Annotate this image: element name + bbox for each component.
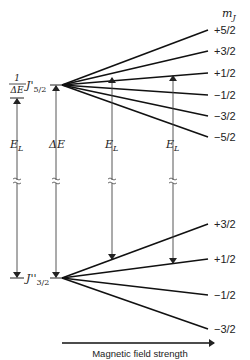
inverse-delta-e-annotation: 1 ΔE [9, 73, 26, 278]
zeeman-diagram: mJ J'5/2 +5/2 +3/2 +1/2 −1/2 −3/2 −5/2 J… [0, 0, 250, 360]
mj-label: +1/2 [214, 253, 236, 265]
mj-label: −3/2 [214, 323, 236, 335]
axis-break-icon [52, 178, 60, 184]
upper-level-label: J'5/2 [24, 79, 46, 94]
mj-label: −1/2 [214, 89, 236, 101]
lower-level: J''3/2 [24, 224, 208, 329]
mj-label: −5/2 [214, 131, 236, 143]
mj-label: −3/2 [214, 110, 236, 122]
upper-sublevel-line [62, 73, 208, 85]
el-label: EL [104, 138, 118, 153]
mj-label: +3/2 [214, 218, 236, 230]
mj-header: mJ [222, 7, 236, 22]
svg-text:1: 1 [14, 73, 20, 83]
magnetic-field-axis: Magnetic field strength [62, 343, 214, 359]
mj-label: +3/2 [214, 45, 236, 57]
axis-break-icon [169, 178, 177, 184]
el-label: EL [9, 138, 23, 153]
x-axis-label: Magnetic field strength [92, 348, 188, 359]
lower-level-label: J''3/2 [24, 272, 49, 287]
lower-sublevel-line [62, 224, 208, 278]
upper-sublevel-line [62, 30, 208, 85]
axis-break-icon [13, 178, 21, 184]
upper-level: J'5/2 [24, 30, 208, 137]
lower-sublevel-line [62, 259, 208, 278]
lower-mj-labels: +3/2 +1/2 −1/2 −3/2 [214, 218, 236, 335]
upper-mj-labels: +5/2 +3/2 +1/2 −1/2 −3/2 −5/2 [214, 24, 236, 143]
axis-break-icon [108, 178, 116, 184]
mj-label: +1/2 [214, 67, 236, 79]
delta-e-label: ΔE [48, 138, 65, 151]
el-label: EL [165, 138, 179, 153]
delta-e-arrow: ΔE [48, 86, 65, 277]
mj-label: +5/2 [214, 24, 236, 36]
svg-text:ΔE: ΔE [9, 85, 23, 95]
left-el-arrow: EL [9, 99, 23, 277]
lower-sublevel-line [62, 278, 208, 329]
upper-sublevel-line [62, 51, 208, 85]
mj-label: −1/2 [214, 289, 236, 301]
lower-sublevel-line [62, 278, 208, 295]
